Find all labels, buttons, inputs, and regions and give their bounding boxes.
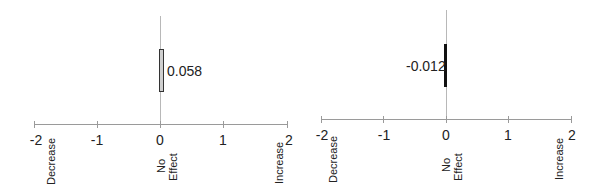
right-effect-chart: -2 -1 0 1 2 -0.012 Decrease No Effect In… bbox=[0, 0, 607, 196]
tick-label: -1 bbox=[378, 127, 390, 143]
decrease-label: Decrease bbox=[327, 136, 339, 183]
tick-label: 2 bbox=[568, 127, 576, 143]
tick-mark bbox=[446, 116, 447, 123]
tick-mark bbox=[321, 116, 322, 123]
no-effect-label-effect: Effect bbox=[452, 153, 464, 181]
tick-label: 0 bbox=[442, 127, 450, 143]
tick-mark bbox=[571, 116, 572, 123]
tick-mark bbox=[508, 116, 509, 123]
tick-label: 1 bbox=[504, 127, 512, 143]
bar-value-label: -0.012 bbox=[406, 58, 446, 74]
tick-mark bbox=[383, 116, 384, 123]
no-effect-label-no: No bbox=[440, 158, 452, 172]
increase-label: Increase bbox=[553, 138, 565, 180]
